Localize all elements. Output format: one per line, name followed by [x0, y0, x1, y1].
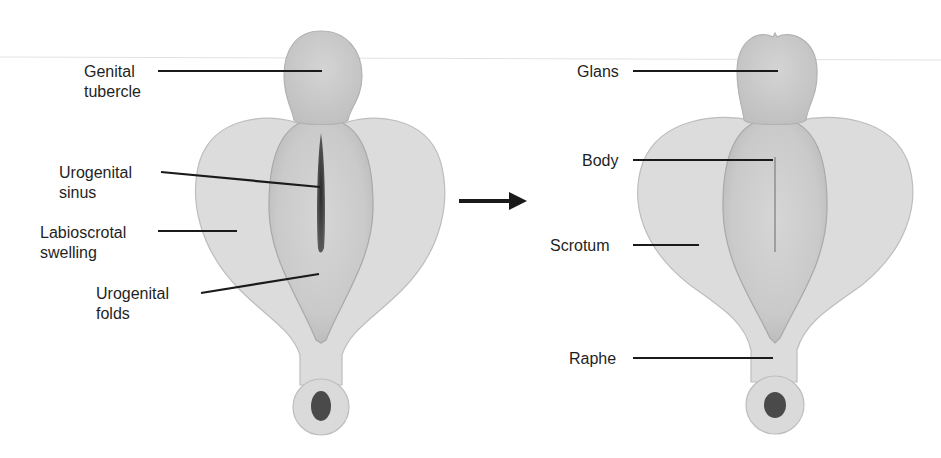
label-labioscrotal-swelling-line2: swelling [40, 244, 97, 261]
label-labioscrotal-swelling-line1: Labioscrotal [40, 224, 126, 241]
anal-opening [311, 391, 331, 421]
glans-shape [737, 33, 817, 125]
label-urogenital-folds-line1: Urogenital [96, 285, 169, 302]
label-scrotum: Scrotum [550, 237, 610, 254]
right-stage-figure [638, 33, 913, 434]
label-body: Body [582, 152, 618, 169]
genitalia-development-diagram: Genital tubercle Urogenital sinus Labios… [0, 0, 941, 458]
label-genital-tubercle-line2: tubercle [84, 83, 141, 100]
label-urogenital-folds-line2: folds [96, 305, 130, 322]
anus-opening [764, 392, 786, 418]
label-urogenital-sinus-line1: Urogenital [59, 164, 132, 181]
label-raphe: Raphe [569, 350, 616, 367]
right-arrow-icon [459, 192, 527, 210]
genital-tubercle-shape [284, 31, 362, 125]
label-glans: Glans [577, 63, 619, 80]
label-urogenital-sinus-line2: sinus [59, 184, 96, 201]
left-stage-figure [196, 31, 445, 435]
label-genital-tubercle-line1: Genital [84, 63, 135, 80]
